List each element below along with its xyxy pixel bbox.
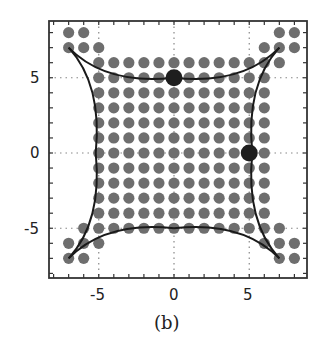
lattice-dot bbox=[214, 162, 225, 173]
lattice-dot bbox=[153, 117, 164, 128]
lattice-plot bbox=[0, 0, 329, 356]
y-tick-label-0: 0 bbox=[30, 144, 40, 162]
lattice-dot bbox=[138, 147, 149, 158]
lattice-dot bbox=[168, 147, 179, 158]
lattice-dot bbox=[229, 102, 240, 113]
lattice-dot bbox=[138, 117, 149, 128]
lattice-dot bbox=[153, 102, 164, 113]
lattice-dot bbox=[78, 42, 89, 53]
lattice-dot bbox=[168, 117, 179, 128]
lattice-dot bbox=[199, 178, 210, 189]
lattice-dot bbox=[168, 208, 179, 219]
lattice-dot bbox=[259, 87, 270, 98]
lattice-dot bbox=[274, 57, 285, 68]
lattice-dot bbox=[229, 147, 240, 158]
lattice-dot bbox=[259, 193, 270, 204]
lattice-dot bbox=[183, 117, 194, 128]
lattice-dot bbox=[214, 208, 225, 219]
x-tick-label-0: 0 bbox=[169, 286, 179, 304]
lattice-dot bbox=[63, 27, 74, 38]
lattice-dot bbox=[199, 147, 210, 158]
lattice-dot bbox=[108, 208, 119, 219]
lattice-dot bbox=[229, 117, 240, 128]
lattice-dot bbox=[123, 132, 134, 143]
lattice-dot bbox=[108, 132, 119, 143]
lattice-dot bbox=[93, 117, 104, 128]
lattice-dot bbox=[229, 87, 240, 98]
lattice-dot bbox=[259, 147, 270, 158]
lattice-dot bbox=[78, 253, 89, 264]
lattice-dot bbox=[138, 178, 149, 189]
lattice-dot bbox=[183, 147, 194, 158]
lattice-dot bbox=[123, 102, 134, 113]
lattice-dot bbox=[199, 208, 210, 219]
lattice-dot bbox=[123, 117, 134, 128]
lattice-dot bbox=[244, 72, 255, 83]
lattice-dot bbox=[259, 117, 270, 128]
lattice-dot bbox=[63, 238, 74, 249]
lattice-dot bbox=[183, 178, 194, 189]
lattice-dot bbox=[214, 132, 225, 143]
lattice-dot bbox=[229, 57, 240, 68]
lattice-dot bbox=[93, 162, 104, 173]
lattice-dot bbox=[153, 208, 164, 219]
lattice-dot bbox=[214, 87, 225, 98]
lattice-dot bbox=[138, 193, 149, 204]
lattice-dot bbox=[138, 57, 149, 68]
lattice-dot bbox=[168, 57, 179, 68]
lattice-dot bbox=[108, 57, 119, 68]
highlighted-dot bbox=[166, 69, 183, 86]
lattice-dot bbox=[229, 162, 240, 173]
lattice-dot bbox=[93, 72, 104, 83]
lattice-dot bbox=[168, 178, 179, 189]
lattice-dot bbox=[244, 208, 255, 219]
lattice-dot bbox=[93, 147, 104, 158]
lattice-dot bbox=[153, 193, 164, 204]
lattice-dot bbox=[214, 117, 225, 128]
lattice-dot bbox=[214, 102, 225, 113]
lattice-dot bbox=[123, 87, 134, 98]
lattice-dot bbox=[123, 193, 134, 204]
lattice-dot bbox=[259, 178, 270, 189]
lattice-dot bbox=[259, 208, 270, 219]
lattice-dot bbox=[93, 87, 104, 98]
lattice-dot bbox=[138, 87, 149, 98]
lattice-dot bbox=[259, 162, 270, 173]
lattice-dot bbox=[123, 57, 134, 68]
lattice-dot bbox=[244, 132, 255, 143]
lattice-dot bbox=[199, 87, 210, 98]
lattice-dot bbox=[214, 57, 225, 68]
lattice-dot bbox=[138, 208, 149, 219]
lattice-dot bbox=[229, 178, 240, 189]
lattice-dot bbox=[108, 87, 119, 98]
lattice-dot bbox=[168, 162, 179, 173]
lattice-dot bbox=[153, 57, 164, 68]
lattice-dot bbox=[199, 132, 210, 143]
lattice-dot bbox=[93, 178, 104, 189]
lattice-dot bbox=[274, 27, 285, 38]
lattice-dot bbox=[214, 147, 225, 158]
lattice-dot bbox=[123, 178, 134, 189]
lattice-dot bbox=[108, 178, 119, 189]
lattice-dot bbox=[183, 132, 194, 143]
lattice-dot bbox=[259, 42, 270, 53]
lattice-dot bbox=[199, 193, 210, 204]
lattice-dot bbox=[168, 87, 179, 98]
lattice-dot bbox=[199, 57, 210, 68]
lattice-dot bbox=[108, 162, 119, 173]
lattice-dot bbox=[108, 147, 119, 158]
highlighted-dot bbox=[241, 145, 258, 162]
lattice-dot bbox=[214, 193, 225, 204]
lattice-dot bbox=[199, 117, 210, 128]
lattice-dot bbox=[183, 87, 194, 98]
lattice-dot bbox=[153, 178, 164, 189]
lattice-dot bbox=[183, 57, 194, 68]
lattice-dot bbox=[153, 87, 164, 98]
lattice-dot bbox=[199, 102, 210, 113]
lattice-dot bbox=[108, 193, 119, 204]
lattice-dot bbox=[274, 223, 285, 234]
lattice-dot bbox=[138, 132, 149, 143]
highlighted-points bbox=[166, 69, 258, 161]
x-tick-label-neg5: -5 bbox=[90, 286, 105, 304]
lattice-dot bbox=[78, 27, 89, 38]
